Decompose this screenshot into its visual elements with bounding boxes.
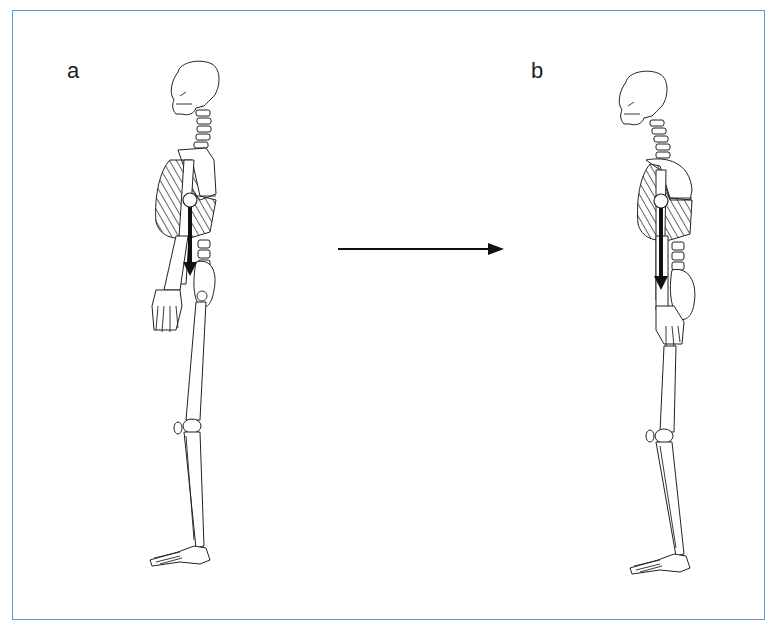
tibia	[656, 442, 684, 556]
skeleton-a	[150, 61, 219, 566]
skull-icon	[171, 61, 219, 115]
diagram-canvas	[0, 0, 776, 632]
cervical-spine	[194, 110, 211, 148]
center-of-mass-marker	[654, 194, 668, 208]
femur	[660, 346, 676, 432]
femur	[186, 302, 206, 420]
arrow-right-icon	[488, 243, 504, 255]
transition-arrow	[338, 243, 504, 255]
skeleton-b	[619, 71, 695, 574]
cervical-spine	[650, 120, 670, 158]
center-of-mass-marker	[183, 193, 197, 207]
skull-icon	[619, 71, 667, 125]
